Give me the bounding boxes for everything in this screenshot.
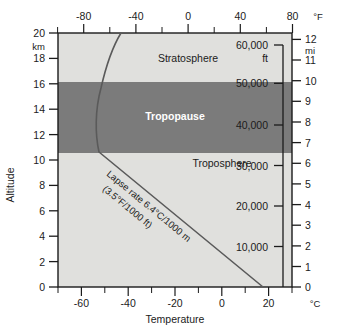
y-axis-title: Altitude	[4, 167, 16, 202]
inner-ft-tick-label: 10,000	[236, 241, 268, 253]
right-axis-tick-label: 12	[305, 33, 317, 45]
band-label-troposphere: Troposphere	[192, 157, 251, 169]
left-axis-tick-label: 6	[39, 205, 45, 217]
left-axis-tick-label: 18	[33, 52, 45, 64]
left-axis-tick-label: 14	[33, 103, 45, 115]
right-axis-tick-label: 1	[305, 261, 311, 273]
bottom-axis-tick-label: 0	[219, 297, 225, 309]
top-axis-tick-label: 40	[234, 10, 246, 22]
bottom-axis-tick-label: -60	[74, 297, 89, 309]
right-axis-tick-label: 2	[305, 240, 311, 252]
left-axis-tick-label: 2	[39, 256, 45, 268]
band-label-tropopause: Tropopause	[145, 110, 205, 122]
inner-ft-tick-label: 50,000	[236, 77, 268, 89]
right-axis-tick-label: 10	[305, 75, 317, 87]
right-axis-tick-label: 4	[305, 199, 311, 211]
right-axis-ticks	[292, 39, 301, 287]
right-axis-tick-label: 7	[305, 137, 311, 149]
right-axis-tick-label: 9	[305, 95, 311, 107]
bottom-axis-major-ticks	[81, 287, 268, 296]
top-axis-major-ticks	[84, 24, 293, 33]
right-axis-tick-label: 3	[305, 219, 311, 231]
right-axis-tick-label: 0	[305, 281, 311, 293]
left-axis-tick-label: 10	[33, 154, 45, 166]
inner-ft-tick-label: 40,000	[236, 119, 268, 131]
left-axis-tick-label: 16	[33, 78, 45, 90]
bottom-axis-tick-label: 20	[263, 297, 275, 309]
x-axis-title: Temperature	[146, 313, 205, 325]
right-axis-tick-label: 5	[305, 178, 311, 190]
left-axis-tick-label: 0	[39, 281, 45, 293]
left-axis-tick-label: 8	[39, 179, 45, 191]
inner-ft-unit-label: ft	[262, 52, 268, 64]
inner-ft-tick-label: 20,000	[236, 200, 268, 212]
bottom-axis-unit-label: °C	[310, 298, 321, 309]
inner-ft-tick-label: 60,000	[236, 39, 268, 51]
left-axis-tick-label: 12	[33, 129, 45, 141]
left-axis-tick-label: 4	[39, 230, 45, 242]
right-axis-unit-label: mi	[305, 45, 315, 56]
top-axis-tick-label: 80	[287, 10, 299, 22]
top-axis-tick-label: -40	[128, 10, 143, 22]
top-axis-tick-label: 0	[185, 10, 191, 22]
top-axis-minor-ticks	[58, 27, 267, 33]
top-axis-tick-label: -80	[76, 10, 91, 22]
right-axis-tick-label: 6	[305, 157, 311, 169]
diagram-canvas: -80 -40 0 40 80 °F -60 -40 -20 0 20 °C T…	[0, 0, 358, 331]
top-axis-unit-label: °F	[313, 11, 323, 22]
band-label-stratosphere: Stratosphere	[158, 52, 218, 64]
left-axis-unit-label: km	[32, 41, 45, 52]
bottom-axis-tick-label: -20	[167, 297, 182, 309]
right-axis-tick-label: 8	[305, 116, 311, 128]
left-axis-tick-label: 20	[33, 27, 45, 39]
atmosphere-temperature-diagram: -80 -40 0 40 80 °F -60 -40 -20 0 20 °C T…	[0, 0, 358, 331]
bottom-axis-tick-label: -40	[121, 297, 136, 309]
left-axis-ticks	[49, 33, 58, 287]
